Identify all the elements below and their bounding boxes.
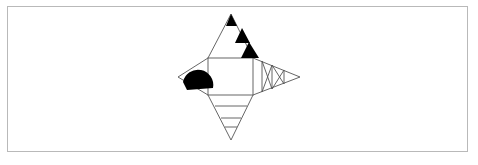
top-spike-black-triangles: [226, 14, 259, 58]
right-cross-segment-2: [272, 70, 284, 89]
bottom-spike-outline: [208, 95, 253, 140]
screenshot-canvas: [0, 0, 478, 165]
black-triangle-2: [235, 28, 250, 43]
black-half-disc: [183, 70, 213, 90]
star-net-figure: [0, 0, 478, 165]
right-spike-outline: [253, 58, 300, 95]
center-square: [208, 58, 253, 95]
left-spike-black-blob: [183, 70, 213, 90]
black-triangle-3: [241, 42, 259, 58]
